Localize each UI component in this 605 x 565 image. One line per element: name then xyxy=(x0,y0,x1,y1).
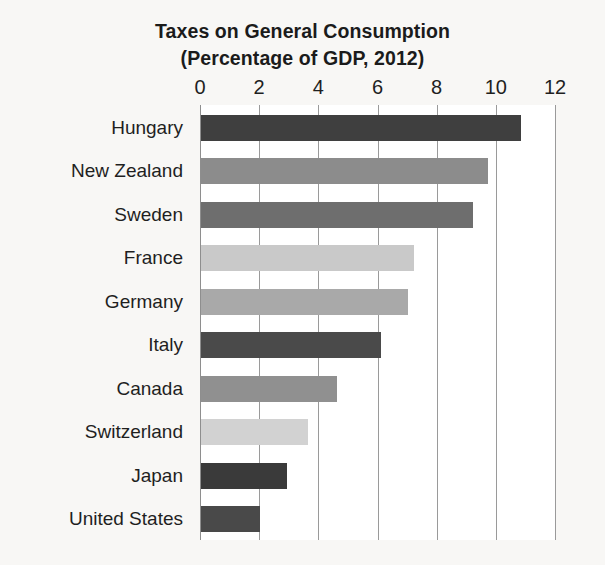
bar-hungary xyxy=(201,115,521,141)
gridline-12 xyxy=(555,105,556,540)
bar-france xyxy=(201,245,414,271)
bar-japan xyxy=(201,463,287,489)
bar-sweden xyxy=(201,202,473,228)
plot-area xyxy=(200,105,555,540)
category-label-hungary: Hungary xyxy=(111,115,183,141)
bar-united-states xyxy=(201,506,260,532)
bar-germany xyxy=(201,289,408,315)
x-tick-label-6: 6 xyxy=(372,76,383,99)
chart-title: Taxes on General Consumption xyxy=(0,18,605,45)
chart-title-block: Taxes on General Consumption (Percentage… xyxy=(0,18,605,72)
category-label-canada: Canada xyxy=(116,376,183,402)
chart-figure: Taxes on General Consumption (Percentage… xyxy=(0,0,605,565)
category-label-switzerland: Switzerland xyxy=(85,419,183,445)
x-tick-label-2: 2 xyxy=(254,76,265,99)
bar-new-zealand xyxy=(201,158,488,184)
x-tick-label-0: 0 xyxy=(194,76,205,99)
x-tick-label-4: 4 xyxy=(313,76,324,99)
category-label-germany: Germany xyxy=(105,289,183,315)
category-label-italy: Italy xyxy=(148,332,183,358)
category-label-sweden: Sweden xyxy=(114,202,183,228)
x-tick-label-10: 10 xyxy=(485,76,507,99)
category-label-japan: Japan xyxy=(131,463,183,489)
category-label-new-zealand: New Zealand xyxy=(71,158,183,184)
bar-switzerland xyxy=(201,419,308,445)
category-label-united-states: United States xyxy=(69,506,183,532)
bar-italy xyxy=(201,332,381,358)
y-axis-category-labels: HungaryNew ZealandSwedenFranceGermanyIta… xyxy=(0,105,192,540)
gridline-10 xyxy=(496,105,497,540)
x-tick-label-8: 8 xyxy=(431,76,442,99)
bar-canada xyxy=(201,376,337,402)
x-tick-label-12: 12 xyxy=(544,76,566,99)
x-axis-tick-labels: 024681012 xyxy=(0,76,605,102)
category-label-france: France xyxy=(124,245,183,271)
chart-subtitle: (Percentage of GDP, 2012) xyxy=(0,45,605,72)
